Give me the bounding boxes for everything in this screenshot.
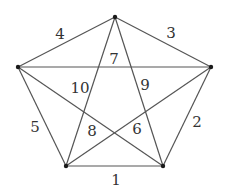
edge-label-8: 8	[87, 122, 97, 140]
vertex-left	[16, 65, 20, 69]
edge-label-3: 3	[166, 24, 176, 42]
edge-label-4: 4	[55, 25, 65, 43]
vertex-right	[209, 65, 213, 69]
vertex-top	[113, 15, 117, 19]
edge-label-9: 9	[140, 76, 150, 94]
vertices-layer	[16, 15, 213, 168]
edge-5	[18, 67, 66, 166]
edge-label-2: 2	[192, 113, 202, 131]
vertex-bottom-right	[161, 164, 165, 168]
edge-label-7: 7	[109, 50, 119, 68]
edge-3	[115, 17, 211, 67]
edge-label-6: 6	[132, 120, 142, 138]
edge-label-5: 5	[30, 118, 40, 136]
edge-9	[115, 17, 163, 166]
edge-label-1: 1	[111, 171, 121, 189]
edge-label-10: 10	[70, 79, 89, 97]
edge-2	[163, 67, 211, 166]
vertex-bottom-left	[64, 164, 68, 168]
edges-layer	[18, 17, 211, 166]
k5-graph-diagram: 12345678910	[0, 0, 228, 195]
